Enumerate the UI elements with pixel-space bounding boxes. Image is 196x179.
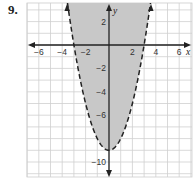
x-axis-label: x bbox=[185, 47, 191, 57]
y-tick-label: −4 bbox=[96, 87, 106, 97]
x-tick-label: −2 bbox=[81, 47, 91, 57]
x-tick-label: −6 bbox=[34, 47, 44, 57]
parabola-inequality-graph: −6−4−22462−2−4−6−10xy bbox=[0, 0, 196, 179]
y-tick-label: −10 bbox=[92, 157, 107, 167]
x-tick-label: 2 bbox=[130, 47, 135, 57]
y-tick-label: 2 bbox=[101, 17, 106, 27]
y-axis-label: y bbox=[112, 6, 118, 16]
x-tick-label: 4 bbox=[153, 47, 158, 57]
x-tick-label: −4 bbox=[57, 47, 67, 57]
y-tick-label: −6 bbox=[96, 110, 106, 120]
y-tick-label: −2 bbox=[96, 63, 106, 73]
x-tick-label: 6 bbox=[177, 47, 182, 57]
